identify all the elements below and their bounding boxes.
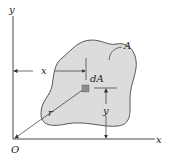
x-axis-label: x (156, 134, 162, 145)
area-region (41, 40, 136, 126)
area-element-dA (82, 85, 89, 92)
y-axis-label: y (8, 4, 15, 15)
y-distance-label: y (102, 105, 109, 116)
origin-label: O (11, 144, 19, 155)
x-distance-label: x (41, 65, 47, 76)
area-label: A (123, 40, 131, 51)
element-label: dA (90, 73, 104, 84)
area-moment-diagram: y x O A dA x y r (0, 0, 171, 164)
